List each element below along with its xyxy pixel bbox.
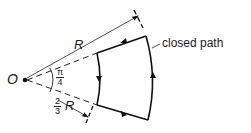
arrow-up-icon <box>150 72 156 78</box>
origin-point <box>23 78 28 83</box>
inner-radius-suffix: R <box>65 98 74 113</box>
inner-radius-denominator: 3 <box>54 107 61 116</box>
inner-radius-fraction: 2 3 <box>54 97 61 116</box>
radius-tick <box>134 10 143 28</box>
upper-radial-segment <box>97 36 146 53</box>
closed-path-label: closed path <box>162 36 223 50</box>
arrow-left-icon <box>120 38 127 43</box>
diagram: O R π 4 2 3 R closed path <box>0 0 251 133</box>
arrow-down-icon <box>96 76 102 82</box>
angle-denominator: 4 <box>56 78 64 87</box>
inner-radius-tick <box>86 106 93 123</box>
origin-label: O <box>7 71 18 87</box>
angle-label: π 4 <box>56 68 64 87</box>
radius-label: R <box>74 37 83 52</box>
label-leader <box>152 44 160 48</box>
diagram-drawing <box>0 0 251 133</box>
